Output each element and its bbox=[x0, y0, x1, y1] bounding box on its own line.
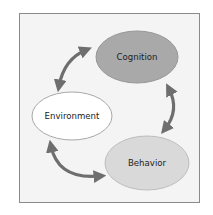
node-label-cognition: Cognition bbox=[116, 52, 157, 62]
arrow-environment-cognition bbox=[59, 50, 86, 86]
node-environment: Environment bbox=[32, 92, 112, 140]
reciprocal-determinism-diagram: Cognition Environment Behavior bbox=[0, 0, 213, 215]
node-label-behavior: Behavior bbox=[128, 158, 167, 168]
node-label-environment: Environment bbox=[45, 111, 101, 121]
arrow-behavior-environment bbox=[51, 146, 100, 176]
node-cognition: Cognition bbox=[96, 31, 178, 83]
node-behavior: Behavior bbox=[105, 136, 189, 190]
arrow-cognition-behavior bbox=[165, 89, 174, 129]
